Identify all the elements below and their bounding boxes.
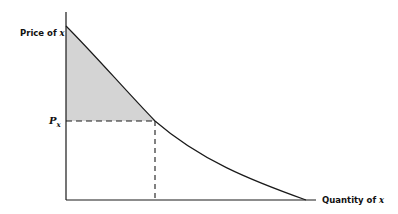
y-axis-label: Price of x — [20, 28, 66, 38]
price-marker-label: Px — [48, 115, 62, 129]
x-axis-label: Quantity of x — [322, 195, 385, 205]
demand-curve-diagram: Price of x Px Quantity of x — [0, 0, 398, 214]
